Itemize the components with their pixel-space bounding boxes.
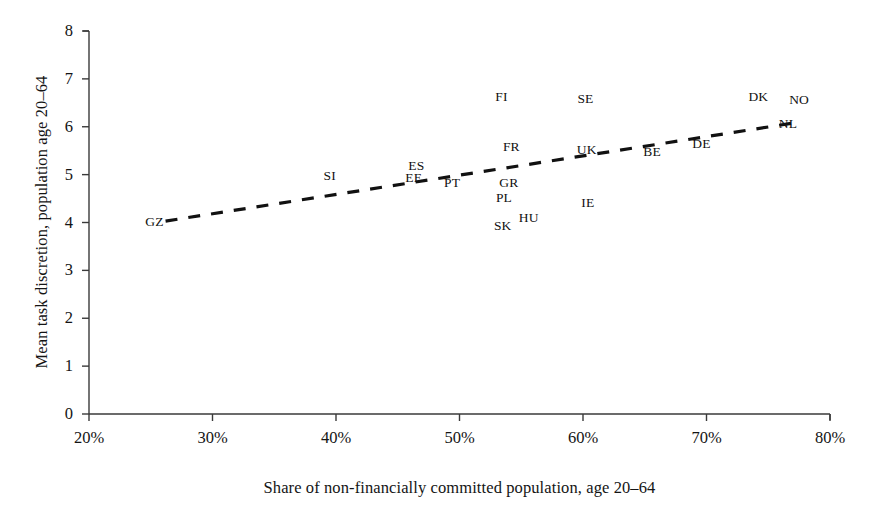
y-axis-ticks	[82, 31, 89, 414]
x-axis-ticks	[89, 414, 830, 421]
y-tick-label: 3	[49, 260, 73, 280]
data-point-label: NO	[789, 92, 809, 108]
data-point-label: EE	[405, 170, 422, 186]
y-tick-label: 8	[49, 21, 73, 41]
x-axis-title: Share of non-financially committed popul…	[89, 478, 830, 498]
data-point-label: GR	[499, 175, 518, 191]
x-tick-label: 60%	[553, 428, 613, 448]
x-tick-label: 50%	[430, 428, 490, 448]
data-point-label: GZ	[145, 214, 163, 230]
x-tick-label: 30%	[183, 428, 243, 448]
x-tick-label: 40%	[306, 428, 366, 448]
y-tick-label: 5	[49, 165, 73, 185]
data-point-label: PT	[444, 175, 460, 191]
y-tick-label: 7	[49, 69, 73, 89]
data-point-label: SI	[324, 168, 336, 184]
data-point-label: PL	[496, 190, 512, 206]
figure-container: Mean task discretion, population age 20–…	[0, 0, 881, 528]
data-point-label: DE	[692, 136, 710, 152]
scatter-plot-svg	[0, 0, 881, 528]
data-point-label: FI	[495, 89, 507, 105]
data-point-label: SK	[494, 218, 512, 234]
y-tick-label: 6	[49, 117, 73, 137]
data-point-label: HU	[519, 210, 539, 226]
data-point-label: SE	[577, 91, 593, 107]
data-point-label: BE	[643, 144, 661, 160]
data-point-label: IE	[581, 195, 594, 211]
y-tick-label: 0	[49, 404, 73, 424]
data-point-label: DK	[748, 89, 768, 105]
y-tick-label: 4	[49, 213, 73, 233]
x-tick-label: 80%	[800, 428, 860, 448]
axes-group	[83, 31, 830, 420]
x-tick-label: 70%	[677, 428, 737, 448]
data-point-label: UK	[577, 142, 597, 158]
y-tick-label: 1	[49, 356, 73, 376]
y-tick-label: 2	[49, 308, 73, 328]
x-tick-label: 20%	[59, 428, 119, 448]
data-point-label: NL	[779, 116, 797, 132]
data-point-label: FR	[503, 139, 520, 155]
